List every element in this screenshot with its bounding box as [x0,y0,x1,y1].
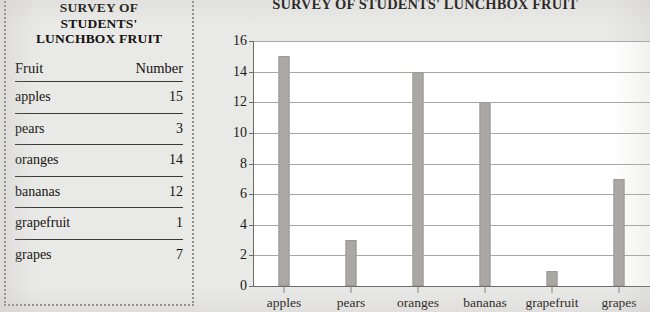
bar-grapes [614,179,625,286]
y-axis-tick-label: 16 [233,33,247,49]
y-axis-tick-label: 4 [240,217,247,233]
y-axis-tick-mark [249,164,254,165]
bar-grapefruit [547,271,558,286]
table-title: SURVEY OF STUDENTS' LUNCHBOX FRUIT [15,0,183,47]
survey-table-panel-inner: SURVEY OF STUDENTS' LUNCHBOX FRUIT Fruit… [6,0,192,304]
y-axis-tick-mark [249,102,254,103]
gridline [254,102,650,103]
table-row: pears 3 [15,113,183,145]
x-axis-tick-mark [485,286,486,293]
fruit-count-table: Fruit Number apples 15 pears 3 oranges [15,58,183,271]
y-axis-tick-label: 14 [233,64,247,80]
y-axis-tick-mark [249,41,254,42]
x-axis-tick-label-bananas: bananas [463,295,506,310]
page-root: SURVEY OF STUDENTS' LUNCHBOX FRUIT Fruit… [0,0,650,312]
table-row: bananas 12 [15,176,183,208]
survey-table-panel: SURVEY OF STUDENTS' LUNCHBOX FRUIT Fruit… [4,0,194,306]
cell-number: 15 [105,82,183,114]
y-axis-tick-label: 8 [240,156,247,172]
table-title-line-1: SURVEY OF [15,0,183,16]
table-title-line-2: STUDENTS' [15,16,183,32]
y-axis-tick-label: 10 [233,125,247,141]
chart-title: SURVEY OF STUDENTS' LUNCHBOX FRUIT [205,0,645,12]
bar-apples [279,56,290,286]
x-axis-tick-mark [418,286,419,293]
gridline [254,225,650,226]
gridline [254,41,650,42]
y-axis-tick-mark [249,72,254,73]
y-axis-tick-mark [249,194,254,195]
cell-fruit: bananas [15,176,105,208]
plot-area: 0246810121416applespearsorangesbananasgr… [253,41,650,287]
table-row: grapefruit 1 [15,208,183,240]
table-header: Fruit Number [15,58,183,82]
x-axis-tick-label-grapes: grapes [601,295,636,310]
x-axis-tick-label-grapefruit: grapefruit [525,295,578,310]
bar-bananas [480,102,491,286]
x-axis-tick-mark [351,286,352,293]
x-axis-tick-mark [284,286,285,293]
gridline [254,255,650,256]
x-axis-tick-label-pears: pears [337,295,365,310]
cell-fruit: apples [15,82,105,114]
x-axis-tick-mark [619,286,620,293]
cell-fruit: oranges [15,145,105,177]
bar-chart-panel: SURVEY OF STUDENTS' LUNCHBOX FRUIT 02468… [205,0,650,312]
gridline [254,133,650,134]
x-axis-tick-label-oranges: oranges [397,295,439,310]
cell-number: 1 [105,208,183,240]
x-axis-tick-mark [552,286,553,293]
y-axis-tick-label: 2 [240,247,247,263]
cell-number: 14 [105,145,183,177]
cell-number: 12 [105,176,183,208]
gridline [254,194,650,195]
cell-fruit: grapes [15,239,105,271]
cell-fruit: pears [15,113,105,145]
x-axis-tick-label-apples: apples [267,295,302,310]
table-header-row: Fruit Number [15,58,183,82]
bar-pears [346,240,357,286]
cell-fruit: grapefruit [15,208,105,240]
y-axis-tick-mark [249,225,254,226]
table-row: grapes 7 [15,239,183,271]
column-header-number: Number [105,58,183,82]
bar-oranges [413,72,424,286]
y-axis-tick-mark [249,133,254,134]
y-axis-tick-mark [249,286,254,287]
table-row: apples 15 [15,82,183,114]
cell-number: 7 [105,239,183,271]
y-axis-tick-mark [249,255,254,256]
y-axis-tick-label: 6 [240,186,247,202]
gridline [254,164,650,165]
table-body: apples 15 pears 3 oranges 14 bananas 12 [15,82,183,271]
column-header-fruit: Fruit [15,58,105,82]
y-axis-tick-label: 12 [233,94,247,110]
cell-number: 3 [105,113,183,145]
y-axis-tick-label: 0 [240,278,247,294]
table-row: oranges 14 [15,145,183,177]
table-title-line-3: LUNCHBOX FRUIT [15,31,183,47]
gridline [254,72,650,73]
